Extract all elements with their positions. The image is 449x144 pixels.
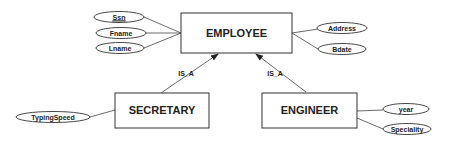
attribute-address[interactable]: Address — [317, 23, 367, 34]
entity-secretary-label: SECRETARY — [129, 104, 196, 116]
attribute-typingspeed[interactable]: TypingSpeed — [16, 112, 90, 123]
isa-label-secretary: IS_A — [178, 70, 194, 77]
entity-secretary[interactable]: SECRETARY — [115, 93, 209, 128]
attribute-fname[interactable]: Fname — [96, 28, 146, 39]
line-bdate — [292, 33, 318, 49]
attribute-year[interactable]: year — [383, 104, 429, 115]
entity-engineer[interactable]: ENGINEER — [262, 93, 357, 128]
attribute-speciality[interactable]: Speciality — [383, 124, 431, 135]
er-diagram: EMPLOYEE SECRETARY ENGINEER Ssn Fname Ln… — [0, 0, 449, 144]
line-ssn — [144, 17, 181, 33]
entity-engineer-label: ENGINEER — [281, 104, 339, 116]
attribute-ssn[interactable]: Ssn — [94, 12, 144, 23]
line-lname — [144, 33, 181, 48]
attribute-lname-label: Lname — [109, 45, 132, 52]
attribute-lname[interactable]: Lname — [96, 43, 144, 54]
attribute-speciality-label: Speciality — [391, 126, 424, 134]
line-address — [292, 29, 318, 33]
attribute-address-label: Address — [328, 25, 356, 32]
entity-employee[interactable]: EMPLOYEE — [181, 13, 292, 53]
attribute-fname-label: Fname — [110, 30, 133, 37]
line-typingspeed — [90, 110, 115, 117]
isa-label-engineer: IS_A — [267, 70, 283, 77]
entity-employee-label: EMPLOYEE — [206, 27, 267, 39]
attribute-bdate[interactable]: Bdate — [318, 44, 366, 55]
attribute-bdate-label: Bdate — [332, 46, 352, 53]
line-year — [357, 110, 383, 111]
attribute-typingspeed-label: TypingSpeed — [31, 114, 74, 122]
line-speciality — [357, 118, 383, 129]
attribute-year-label: year — [399, 106, 414, 114]
attribute-ssn-label: Ssn — [113, 14, 126, 21]
